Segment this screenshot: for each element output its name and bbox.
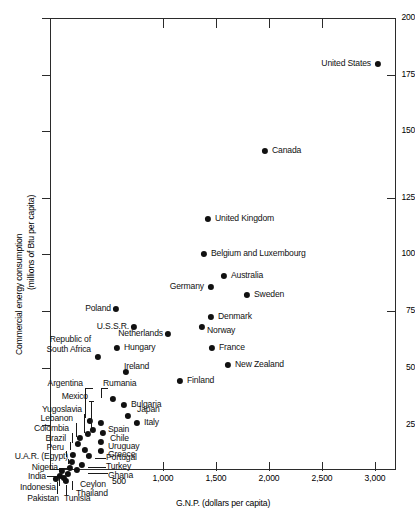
y-tick-75 bbox=[42, 311, 51, 312]
leader-line-ghana bbox=[88, 473, 108, 474]
x-tick-1000 bbox=[163, 462, 164, 471]
point-label-ireland: Ireland bbox=[124, 362, 149, 371]
point-label-argentina: Argentina bbox=[28, 379, 83, 388]
point-label-india: India bbox=[6, 472, 46, 481]
leader-line-portugal bbox=[95, 458, 106, 459]
leader-line-thailand bbox=[72, 481, 73, 490]
leader-line-tunisia bbox=[66, 485, 67, 495]
point-label-rumania: Rumania bbox=[103, 379, 136, 388]
y-ticklabel-50: 50 bbox=[377, 363, 415, 372]
point-label-hungary: Hungary bbox=[124, 343, 155, 352]
point-label-sweden: Sweden bbox=[254, 290, 284, 299]
y-tick-right-125 bbox=[387, 198, 396, 199]
x-axis-title: G.N.P. (dollars per capita) bbox=[176, 498, 270, 508]
point-label-denmark: Denmark bbox=[218, 312, 252, 321]
x-ticklabel-2000: 2,000 bbox=[249, 474, 289, 483]
leader-elbow-rumania bbox=[101, 388, 108, 389]
point-label-colombia: Colombia bbox=[14, 424, 69, 433]
y-tick-200 bbox=[42, 18, 51, 19]
x-tick-3000 bbox=[375, 462, 376, 471]
point-label-canada: Canada bbox=[272, 146, 301, 155]
leader-elbow-argentina bbox=[85, 388, 93, 389]
y-ticklabel-200: 200 bbox=[377, 13, 415, 22]
point-label-lebanon: Lebanon bbox=[18, 414, 73, 423]
y-ticklabel-175: 175 bbox=[377, 70, 415, 79]
leader-line-rumania bbox=[101, 388, 102, 398]
leader-line-indonesia bbox=[59, 478, 60, 486]
y-ticklabel-25: 25 bbox=[382, 420, 415, 429]
leader-line-uar-egypt bbox=[68, 459, 69, 464]
data-point-tunisia[interactable] bbox=[63, 478, 69, 484]
leader-line-turkey bbox=[88, 467, 106, 468]
y-ticklabel-100: 100 bbox=[377, 249, 415, 258]
point-label-pakistan: Pakistan bbox=[6, 494, 59, 503]
point-label-ghana: Ghana bbox=[108, 471, 133, 480]
leader-line-colombia bbox=[72, 433, 73, 443]
point-label-uar-egypt: U.A.R. (Egypt) bbox=[2, 452, 68, 461]
point-label-united-kingdom: United Kingdom bbox=[215, 214, 274, 223]
x-tick-top-2500 bbox=[322, 19, 323, 28]
y-ticklabel-75: 75 bbox=[377, 306, 415, 315]
x-ticklabel-1500: 1,500 bbox=[196, 474, 236, 483]
y-tick-50 bbox=[42, 368, 51, 369]
x-tick-top-1000 bbox=[163, 19, 164, 28]
point-label-italy: Italy bbox=[144, 418, 159, 427]
plot-frame bbox=[50, 18, 396, 470]
point-label-japan: Japan bbox=[137, 405, 160, 414]
y-axis-title-units: (millions of Btu per capita) bbox=[26, 195, 36, 290]
point-label-poland: Poland bbox=[66, 304, 111, 313]
y-ticklabel-150: 150 bbox=[377, 126, 415, 135]
y-tick-150 bbox=[42, 131, 51, 132]
y-ticklabel-125: 125 bbox=[377, 193, 415, 202]
x-tick-1500 bbox=[216, 462, 217, 471]
leader-line-pakistan bbox=[57, 482, 58, 494]
point-label-norway: Norway bbox=[207, 326, 235, 335]
x-tick-top-1500 bbox=[216, 19, 217, 28]
point-label-finland: Finland bbox=[187, 376, 214, 385]
x-ticklabel-1000: 1,000 bbox=[143, 474, 183, 483]
x-ticklabel-3000: 3,000 bbox=[355, 474, 395, 483]
point-label-united-states: United States bbox=[303, 59, 371, 68]
leader-line-mexico bbox=[91, 401, 92, 428]
point-label-south-africa-line2: South Africa bbox=[25, 345, 91, 354]
leader-line-brazil bbox=[70, 442, 71, 450]
point-label-australia: Australia bbox=[231, 271, 263, 280]
x-tick-top-2000 bbox=[269, 19, 270, 28]
leader-line-yugoslavia bbox=[84, 414, 85, 433]
x-tick-2000 bbox=[269, 462, 270, 471]
y-tick-175 bbox=[42, 75, 51, 76]
point-label-mexico: Mexico bbox=[40, 392, 88, 401]
point-label-tunisia: Tunisia bbox=[64, 494, 90, 503]
y-tick-right-175 bbox=[387, 75, 396, 76]
y-axis-title-main: Commercial energy consumption bbox=[14, 234, 24, 355]
point-label-south-africa-line1: Republic of bbox=[25, 335, 91, 344]
point-label-belgium-luxembourg: Belgium and Luxembourg bbox=[211, 249, 306, 258]
point-label-new-zealand: New Zealand bbox=[235, 360, 284, 369]
leader-elbow-mexico bbox=[89, 401, 94, 402]
point-label-netherlands: Netherlands bbox=[106, 329, 163, 338]
leader-line-lebanon bbox=[76, 423, 77, 437]
x-tick-2500 bbox=[322, 462, 323, 471]
point-label-germany: Germany bbox=[162, 282, 204, 291]
data-point-ghana[interactable] bbox=[74, 467, 80, 473]
y-tick-right-75 bbox=[387, 311, 396, 312]
x-ticklabel-2500: 2,500 bbox=[302, 474, 342, 483]
y-tick-125 bbox=[42, 198, 51, 199]
point-label-france: France bbox=[219, 343, 245, 352]
y-tick-100 bbox=[42, 254, 51, 255]
scatter-chart: 200 175 150 125 100 75 50 25 1,000 1,500… bbox=[0, 0, 415, 529]
point-label-indonesia: Indonesia bbox=[2, 483, 56, 492]
